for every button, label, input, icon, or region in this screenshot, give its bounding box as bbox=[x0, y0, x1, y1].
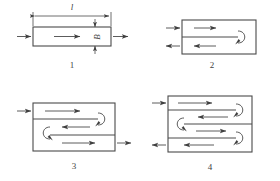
case-3-group: 3 bbox=[17, 103, 131, 171]
uturn-arrowhead-4-left bbox=[182, 126, 187, 131]
diagram-canvas: l B 1 bbox=[0, 0, 280, 181]
uturn-arrowhead-2 bbox=[235, 39, 240, 44]
case-number-3: 3 bbox=[72, 161, 77, 171]
case-number-4: 4 bbox=[208, 162, 213, 172]
case-number-2: 2 bbox=[210, 60, 215, 70]
width-label: B bbox=[92, 34, 102, 40]
case-number-1: 1 bbox=[70, 60, 75, 70]
length-label: l bbox=[71, 2, 74, 12]
case-2-group: 2 bbox=[166, 20, 256, 70]
uturn-arrowhead-3-left bbox=[48, 135, 53, 140]
flow-pass-figure: l B 1 bbox=[0, 0, 280, 181]
case-1-group: l B 1 bbox=[17, 2, 128, 70]
case-4-group: 4 bbox=[152, 96, 252, 172]
uturn-arrowhead-4-bottom-right bbox=[233, 140, 238, 145]
uturn-arrowhead-3-right bbox=[95, 121, 100, 126]
length-dimension bbox=[33, 12, 111, 26]
uturn-arrowhead-4-top-right bbox=[233, 112, 238, 117]
